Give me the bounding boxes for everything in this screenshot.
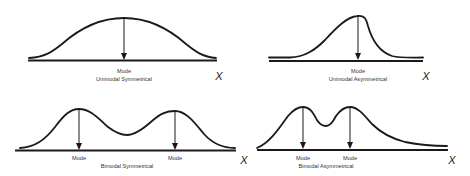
- x-axis-label: X: [447, 154, 456, 166]
- distribution-curve: [269, 16, 423, 58]
- arrow-head-icon: [300, 142, 306, 149]
- panel-bimodal-asymmetrical: Mode Mode Bimodal Asymmetrical X: [257, 107, 456, 169]
- x-axis-label: X: [239, 154, 248, 166]
- x-axis-label: X: [421, 70, 430, 82]
- mode-label: Mode: [117, 68, 131, 74]
- mode-label: Mode: [168, 155, 182, 161]
- x-axis-label: X: [214, 70, 223, 82]
- panel-title: Unimodal Asymmetrical: [329, 76, 387, 82]
- distribution-curve: [29, 18, 216, 58]
- mode-label: Mode: [296, 155, 310, 161]
- panel-unimodal-asymmetrical: Mode Unimodal Asymmetrical X: [269, 16, 430, 82]
- panel-bimodal-symmetrical: Mode Mode Bimodal Symmetrical X: [15, 109, 248, 169]
- panel-unimodal-symmetrical: Mode Unimodal Symmetrical X: [28, 18, 223, 82]
- arrow-head-icon: [172, 143, 178, 150]
- arrow-head-icon: [347, 142, 353, 149]
- mode-label: Mode: [343, 155, 357, 161]
- distribution-curve: [20, 109, 235, 148]
- panel-title: Bimodal Asymmetrical: [298, 163, 353, 169]
- panel-title: Unimodal Symmetrical: [96, 76, 152, 82]
- mode-label: Mode: [351, 68, 365, 74]
- arrow-head-icon: [121, 53, 127, 60]
- arrow-head-icon: [355, 53, 361, 60]
- panel-title: Bimodal Symmetrical: [101, 163, 154, 169]
- distribution-shapes-diagram: Mode Unimodal Symmetrical X Mode Unimoda…: [0, 0, 470, 176]
- distribution-curve: [257, 107, 447, 148]
- arrow-head-icon: [76, 143, 82, 150]
- mode-label: Mode: [72, 155, 86, 161]
